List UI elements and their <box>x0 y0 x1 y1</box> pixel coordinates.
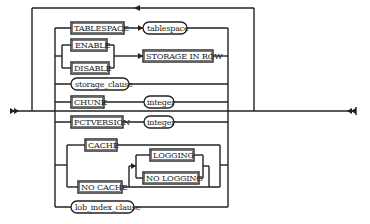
keyword-pctversion: PCTVERSION <box>74 117 130 127</box>
end-double-arrow-icon <box>347 107 356 115</box>
keyword-chunk: CHUNK <box>74 97 108 107</box>
keyword-enable: ENABLE <box>75 40 111 50</box>
branch-pctversion: PCTVERSION integer <box>55 116 228 128</box>
param-tablespace: tablespace <box>147 24 189 33</box>
keyword-logging: LOGGING <box>153 150 194 160</box>
keyword-storage-in-row: STORAGE IN ROW <box>146 51 223 61</box>
keyword-tablespace: TABLESPACE <box>74 23 129 33</box>
branch-lob-index-clause: lob_index_clause <box>55 201 228 213</box>
branch-tablespace: TABLESPACE tablespace <box>55 22 228 34</box>
keyword-cache: CACHE <box>88 140 119 150</box>
keyword-disable: DISABLE <box>74 63 112 73</box>
param-pctversion-integer: integer <box>147 118 175 127</box>
branch-storage-in-row: ENABLE DISABLE STORAGE IN ROW <box>55 39 228 74</box>
param-chunk-integer: integer <box>147 98 175 107</box>
loop-arrow-icon <box>134 5 140 11</box>
nonterminal-storage-clause: storage_clause <box>75 80 133 89</box>
branch-chunk: CHUNK integer <box>55 96 228 108</box>
branch-storage-clause: storage_clause <box>55 78 228 90</box>
start-double-arrow-icon <box>10 108 19 114</box>
keyword-no-logging: NO LOGGING <box>146 173 203 183</box>
syntax-diagram: TABLESPACE tablespace ENABLE DISABLE STO… <box>0 0 370 224</box>
nonterminal-lob-index-clause: lob_index_clause <box>75 203 141 212</box>
branch-cache: CACHE NO CACHE LOGGING NO LOGGING <box>55 139 228 193</box>
keyword-no-cache: NO CACHE <box>81 182 128 192</box>
